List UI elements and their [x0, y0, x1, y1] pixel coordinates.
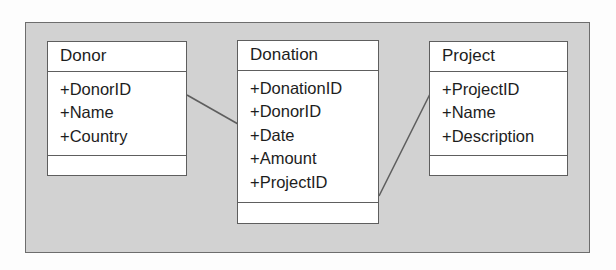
uml-class-project[interactable]: Project +ProjectID +Name +Description [429, 41, 568, 176]
class-name-project: Project [430, 42, 567, 72]
attribute-item: +ProjectID [442, 78, 567, 102]
attribute-item: +ProjectID [250, 171, 378, 195]
class-name-donation: Donation [238, 41, 378, 71]
attribute-compartment-donation: +DonationID +DonorID +Date +Amount +Proj… [238, 71, 378, 203]
operation-compartment-project [430, 156, 567, 175]
attribute-item: +DonorID [60, 78, 186, 102]
operation-compartment-donor [48, 156, 186, 175]
attribute-item: +Name [442, 101, 567, 125]
attribute-item: +DonationID [250, 77, 378, 101]
attribute-item: +Amount [250, 147, 378, 171]
diagram-canvas: Donor +DonorID +Name +Country Donation +… [0, 0, 616, 270]
attribute-item: +Description [442, 125, 567, 149]
attribute-item: +Name [60, 101, 186, 125]
attribute-item: +Date [250, 124, 378, 148]
attribute-compartment-project: +ProjectID +Name +Description [430, 72, 567, 157]
attribute-item: +Country [60, 125, 186, 149]
attribute-compartment-donor: +DonorID +Name +Country [48, 72, 186, 157]
uml-class-donor[interactable]: Donor +DonorID +Name +Country [47, 41, 187, 176]
attribute-item: +DonorID [250, 100, 378, 124]
uml-class-donation[interactable]: Donation +DonationID +DonorID +Date +Amo… [237, 40, 379, 224]
operation-compartment-donation [238, 203, 378, 223]
class-name-donor: Donor [48, 42, 186, 72]
